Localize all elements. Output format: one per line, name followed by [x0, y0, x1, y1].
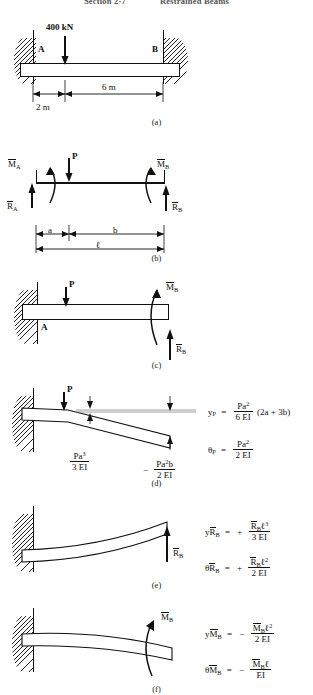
equation-thetap-lhs-sub: P	[212, 448, 216, 455]
equation-theta-rb: θRB = + RBℓ2 2 EI	[205, 558, 272, 580]
dul-num-exp: 3	[83, 451, 86, 457]
panel-d: P Pa3 3 EI − Pa2b 2 EI yP = Pa2 6 EI (2a…	[0, 378, 313, 490]
equation-y-rb-num: RBℓ3	[249, 521, 271, 532]
equation-theta-rb-lhs-sub: B	[215, 567, 219, 574]
equation-yp-den: 6 EI	[234, 411, 253, 422]
deflection-at-tip-sign: −	[143, 465, 148, 475]
caption-c: (c)	[0, 360, 313, 370]
deflection-at-tip-num: Pa2b	[154, 459, 175, 469]
yp-num-exp: 2	[246, 401, 249, 407]
caption-d: (d)	[0, 478, 313, 488]
panel-a: 400 kN A B 2 m 6 m (a)	[0, 18, 313, 128]
equation-theta-rb-fraction: RBℓ2 2 EI	[248, 557, 270, 579]
caption-a: (a)	[0, 117, 313, 127]
moment-label-b-f: MB	[161, 612, 173, 623]
equation-y-mb-lhs-sub: B	[218, 633, 222, 640]
equation-theta-mb-den: EI	[250, 669, 271, 680]
reaction-b-sub-e: B	[179, 552, 183, 559]
equation-theta-rb-num: RBℓ2	[248, 557, 270, 568]
caption-f: (f)	[0, 684, 313, 694]
deflection-under-load-fraction: Pa3 3 EI	[70, 451, 89, 473]
equation-y-mb-rel: =	[227, 629, 232, 639]
dimension-label-a: a	[48, 225, 52, 235]
dimension-label-2m: 2 m	[36, 102, 50, 112]
moment-b-symbol-f: M	[161, 612, 169, 622]
running-head-title: Restrained Beams	[160, 0, 229, 6]
tp-num-exp: 2	[246, 439, 249, 445]
equation-y-rb: yRB = + RBℓ3 3 EI	[205, 522, 272, 544]
equation-y-mb-fraction: MBℓ2 2 EI	[251, 623, 275, 645]
equation-y-rb-rel: =	[225, 527, 230, 537]
equation-theta-mb-rel: =	[227, 665, 232, 675]
equation-thetap-num: Pa2	[233, 439, 252, 449]
panel-b: P MA MB RA RB	[0, 145, 313, 260]
equation-yp-lhs-sub: P	[213, 410, 217, 417]
caption-b: (b)	[0, 253, 313, 263]
equation-theta-rb-rel: =	[225, 563, 230, 573]
equation-theta-mb-fraction: MBℓ EI	[250, 659, 271, 681]
dat-num-tail: b	[168, 459, 173, 469]
tp-num-base: Pa	[237, 439, 246, 449]
equation-y-mb-sign: −	[239, 629, 244, 639]
equation-y-rb-sign: +	[237, 527, 242, 537]
reaction-b-sub-c: B	[182, 348, 186, 355]
dimension-label-l: ℓ	[96, 240, 100, 250]
equation-theta-mb: θMB = − MBℓ EI	[205, 660, 273, 682]
trb-num-exp: 2	[265, 557, 268, 563]
running-head: Section 2·7 Restrained Beams	[0, 0, 313, 6]
deflection-under-load-den: 3 EI	[70, 461, 89, 472]
dul-num-base: Pa	[74, 451, 83, 461]
moment-b-sub-f: B	[169, 616, 173, 623]
equation-yp-num: Pa2	[234, 401, 253, 411]
deflection-under-load-num: Pa3	[70, 451, 89, 461]
equation-theta-rb-den: 2 EI	[248, 567, 270, 578]
equation-y-mb-den: 2 EI	[251, 633, 275, 644]
equation-theta-mb-sign: −	[239, 665, 244, 675]
ymb-num-exp: 2	[269, 623, 272, 629]
equation-y-mb-num: MBℓ2	[251, 623, 275, 634]
reaction-arrow-b-c	[0, 272, 313, 367]
panel-e: RB yRB = + RBℓ3 3 EI θRB = + RBℓ2 2 EI (…	[0, 500, 313, 592]
equation-thetap: θP = Pa2 2 EI	[208, 440, 255, 462]
dat-num-base: Pa	[156, 459, 165, 469]
tmb-num-tail: ℓ	[265, 659, 269, 669]
reaction-label-b-c: RB	[176, 344, 186, 355]
force-label-p-d: P	[67, 384, 73, 394]
dimension-label-6m: 6 m	[102, 82, 116, 92]
dimension-label-b: b	[113, 225, 118, 235]
yp-num-base: Pa	[237, 401, 246, 411]
equation-thetap-den: 2 EI	[233, 449, 252, 460]
equation-theta-mb-num: MBℓ	[250, 659, 271, 670]
deflection-under-load: Pa3 3 EI	[68, 452, 91, 474]
equation-y-mb-lhs-ov: M	[210, 629, 218, 639]
panel-c: P A MB RB (c)	[0, 272, 313, 367]
running-head-section: Section 2·7	[84, 0, 126, 6]
ymb-num-ov: M	[253, 623, 261, 633]
equation-yp-fraction: Pa2 6 EI	[234, 401, 253, 423]
equation-yp: yP = Pa2 6 EI (2a + 3b)	[208, 402, 290, 424]
equation-y-rb-den: 3 EI	[249, 531, 271, 542]
equation-theta-mb-lhs-sub: B	[217, 669, 221, 676]
dimension-lines-b	[0, 145, 313, 260]
caption-e: (e)	[0, 580, 313, 590]
equation-thetap-rel: =	[221, 445, 226, 455]
yrb-num-exp: 3	[265, 521, 268, 527]
equation-thetap-fraction: Pa2 2 EI	[233, 439, 252, 461]
panel-f: MB yMB = − MBℓ2 2 EI θMB = − MBℓ EI (f)	[0, 600, 313, 695]
equation-y-rb-lhs-sub: B	[216, 531, 220, 538]
reaction-label-b-e: RB	[173, 548, 183, 559]
equation-theta-rb-sign: +	[237, 563, 242, 573]
equation-y-mb: yMB = − MBℓ2 2 EI	[205, 624, 276, 646]
equation-yp-rel: =	[221, 407, 226, 417]
equation-yp-tail: (2a + 3b)	[257, 407, 290, 417]
figure-page: Section 2·7 Restrained Beams 400 kN A B	[0, 0, 313, 695]
equation-y-rb-fraction: RBℓ3 3 EI	[249, 521, 271, 543]
